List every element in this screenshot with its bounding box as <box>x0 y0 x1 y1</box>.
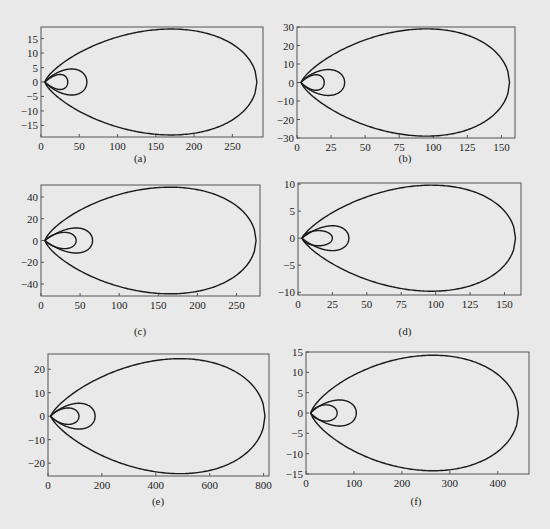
x-tick-label: 25 <box>327 298 339 310</box>
y-tick-label: 10 <box>284 178 296 190</box>
plot-frame <box>41 27 263 137</box>
y-tick-label: 10 <box>292 366 304 378</box>
y-tick-label: −10 <box>21 105 39 117</box>
y-tick-label: 0 <box>290 232 296 244</box>
y-tick-label: −5 <box>283 259 295 271</box>
x-tick-label: 125 <box>462 298 479 310</box>
curve-outer-loop <box>301 29 509 136</box>
y-tick-label: −5 <box>291 427 303 439</box>
x-tick-label: 100 <box>111 299 128 311</box>
x-tick-label: 250 <box>228 299 245 311</box>
x-tick-label: 125 <box>459 141 476 153</box>
x-tick-label: 0 <box>294 141 300 153</box>
plot-frame <box>41 185 260 296</box>
y-tick-label: 10 <box>283 58 295 70</box>
x-tick-label: 50 <box>74 140 86 152</box>
y-tick-label: 20 <box>34 363 46 375</box>
y-tick-label: −10 <box>278 286 296 298</box>
y-tick-label: 5 <box>33 62 39 74</box>
y-tick-label: 40 <box>27 191 39 203</box>
y-tick-label: 0 <box>33 235 39 247</box>
x-tick-label: 200 <box>189 299 206 311</box>
subplot-e: 0200400600800−20−1001020(e) <box>28 354 273 508</box>
curve-outer-loop <box>45 29 257 135</box>
subplot-b: 0255075100125150−30−20−100102030(b) <box>277 21 515 165</box>
x-tick-label: 100 <box>427 298 444 310</box>
curve-middle-loop <box>311 400 357 426</box>
y-tick-label: −15 <box>21 119 39 131</box>
y-tick-label: −10 <box>286 448 304 460</box>
x-tick-label: 400 <box>490 477 507 489</box>
figure-canvas: 050100150200250−15−10−5051015(a)02550751… <box>0 0 550 529</box>
x-tick-label: 100 <box>346 477 363 489</box>
x-tick-label: 600 <box>201 479 218 491</box>
y-tick-label: −20 <box>28 457 46 469</box>
x-tick-label: 50 <box>361 298 373 310</box>
x-tick-label: 150 <box>150 299 167 311</box>
curve-outer-loop <box>51 359 265 474</box>
x-tick-label: 50 <box>75 299 87 311</box>
y-tick-label: −10 <box>277 95 295 107</box>
y-tick-label: −20 <box>277 114 295 126</box>
y-tick-label: 15 <box>292 346 304 358</box>
x-tick-label: 300 <box>442 477 459 489</box>
subplot-caption: (a) <box>134 152 147 165</box>
x-tick-label: 150 <box>493 141 510 153</box>
x-tick-label: 75 <box>396 298 408 310</box>
y-tick-label: 5 <box>298 387 304 399</box>
subplot-caption: (f) <box>411 495 422 508</box>
x-tick-label: 0 <box>38 299 44 311</box>
subplot-c: 050100150200250−40−2002040(c) <box>21 185 260 338</box>
curve-middle-loop <box>45 228 93 253</box>
y-tick-label: 10 <box>27 47 39 59</box>
x-tick-label: 0 <box>45 479 51 491</box>
y-tick-label: 0 <box>40 410 46 422</box>
plot-frame <box>306 352 529 474</box>
x-tick-label: 100 <box>109 140 126 152</box>
x-tick-label: 250 <box>224 140 241 152</box>
subplot-a: 050100150200250−15−10−5051015(a) <box>21 27 263 165</box>
y-tick-label: 30 <box>283 21 295 33</box>
y-tick-label: 0 <box>33 76 39 88</box>
curve-outer-loop <box>302 185 515 291</box>
y-tick-label: 0 <box>289 77 295 89</box>
y-tick-label: 15 <box>27 33 39 45</box>
y-tick-label: −30 <box>277 132 295 144</box>
subplot-caption: (e) <box>152 495 165 508</box>
plot-frame <box>297 27 515 138</box>
x-tick-label: 0 <box>303 477 309 489</box>
y-tick-label: −40 <box>21 278 39 290</box>
y-tick-label: −10 <box>28 434 46 446</box>
subplot-d: 0255075100125150−10−50510(d) <box>278 178 521 338</box>
x-tick-label: 200 <box>94 479 111 491</box>
x-tick-label: 800 <box>255 479 272 491</box>
y-tick-label: 20 <box>283 40 295 52</box>
subplot-f: 0100200300400−15−10−5051015(f) <box>286 346 529 508</box>
x-tick-label: 0 <box>38 140 44 152</box>
y-tick-label: 10 <box>34 387 46 399</box>
x-tick-label: 100 <box>425 141 442 153</box>
x-tick-label: 150 <box>148 140 165 152</box>
curve-inner-loop <box>45 232 76 248</box>
y-tick-label: −20 <box>21 256 39 268</box>
x-tick-label: 0 <box>295 298 301 310</box>
y-tick-label: 5 <box>290 205 296 217</box>
x-tick-label: 25 <box>326 141 338 153</box>
curve-inner-loop <box>311 405 337 421</box>
subplot-caption: (d) <box>399 325 412 338</box>
y-tick-label: −15 <box>286 468 304 480</box>
subplot-caption: (c) <box>134 325 147 338</box>
x-tick-label: 150 <box>496 298 513 310</box>
y-tick-label: 20 <box>27 213 39 225</box>
x-tick-label: 400 <box>148 479 165 491</box>
x-tick-label: 50 <box>360 141 372 153</box>
curve-outer-loop <box>311 355 519 471</box>
y-tick-label: 0 <box>298 407 304 419</box>
subplot-caption: (b) <box>399 152 412 165</box>
x-tick-label: 200 <box>394 477 411 489</box>
x-tick-label: 200 <box>186 140 203 152</box>
y-tick-label: −5 <box>26 90 38 102</box>
